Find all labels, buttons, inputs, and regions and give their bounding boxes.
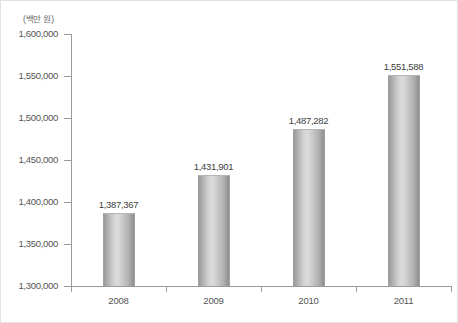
x-tick-mark (451, 286, 452, 292)
y-tick-label: 1,550,000 (18, 70, 58, 81)
bar-value-label: 1,387,367 (79, 199, 159, 210)
y-tick-mark (64, 160, 71, 161)
y-tick-mark (64, 34, 71, 35)
bar-value-label: 1,431,901 (174, 161, 254, 172)
x-tick-mark (71, 286, 72, 292)
x-axis-label-2009: 2009 (184, 295, 244, 306)
y-tick-mark (64, 286, 71, 287)
x-axis-label-2010: 2010 (279, 295, 339, 306)
x-axis-label-2008: 2008 (89, 295, 149, 306)
y-tick-label: 1,400,000 (18, 196, 58, 207)
x-tick-mark (166, 286, 167, 292)
y-tick-mark (64, 76, 71, 77)
bar-2008[interactable] (103, 213, 135, 286)
y-tick-mark (64, 118, 71, 119)
y-tick-mark (64, 202, 71, 203)
x-tick-mark (261, 286, 262, 292)
y-tick-label: 1,600,000 (18, 28, 58, 39)
bar-2011[interactable] (388, 75, 420, 286)
chart-container: (백만 원) 1,600,0001,550,0001,500,0001,450,… (0, 0, 458, 323)
y-tick-mark (64, 244, 71, 245)
bar-2010[interactable] (293, 129, 325, 286)
y-tick-label: 1,500,000 (18, 112, 58, 123)
y-axis-line (71, 34, 72, 287)
x-axis-label-2011: 2011 (374, 295, 434, 306)
y-tick-label: 1,450,000 (18, 154, 58, 165)
y-tick-label: 1,300,000 (18, 280, 58, 291)
x-tick-mark (356, 286, 357, 292)
bar-2009[interactable] (198, 175, 230, 286)
y-tick-label: 1,350,000 (18, 238, 58, 249)
y-axis-unit-label: (백만 원) (23, 12, 54, 24)
bar-value-label: 1,487,282 (269, 115, 349, 126)
bar-value-label: 1,551,588 (364, 61, 444, 72)
